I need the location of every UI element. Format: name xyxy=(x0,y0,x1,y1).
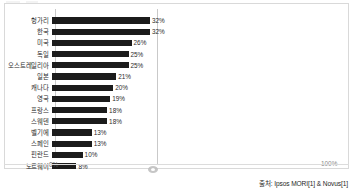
bar-wrapper: 18% xyxy=(52,105,350,116)
bar[interactable] xyxy=(52,152,83,158)
bar-wrapper: 10% xyxy=(52,149,350,160)
bar-value-label: 32% xyxy=(152,17,165,24)
bar-value-label: 21% xyxy=(118,73,131,80)
bar-row: 핀란드10% xyxy=(5,149,350,160)
bar-row: 캐나다20% xyxy=(5,82,350,93)
bar[interactable] xyxy=(52,51,129,57)
category-label: 헝가리 xyxy=(5,17,52,24)
bar-wrapper: 32% xyxy=(52,15,350,26)
bar-value-label: 13% xyxy=(94,129,107,136)
chart-container: 헝가리32%한국32%미국26%독일25%오스트레일리아25%일본21%캐나다2… xyxy=(0,0,354,192)
bar-value-label: 25% xyxy=(131,51,144,58)
bar-value-label: 13% xyxy=(94,140,107,147)
bar[interactable] xyxy=(52,40,132,46)
category-label: 스웨덴 xyxy=(5,118,52,125)
bar-row: 스페인13% xyxy=(5,138,350,149)
category-label: 독일 xyxy=(5,51,52,58)
bar-row: 오스트레일리아25% xyxy=(5,60,350,71)
bar-wrapper: 25% xyxy=(52,60,350,71)
plot-area: 헝가리32%한국32%미국26%독일25%오스트레일리아25%일본21%캐나다2… xyxy=(5,9,350,157)
bar-row: 한국32% xyxy=(5,26,350,37)
bar-value-label: 26% xyxy=(134,39,147,46)
bar[interactable] xyxy=(52,85,113,91)
bar[interactable] xyxy=(52,17,150,23)
bar-row: 독일25% xyxy=(5,49,350,60)
bar[interactable] xyxy=(52,118,107,124)
category-label: 미국 xyxy=(5,39,52,46)
bar-wrapper: 26% xyxy=(52,37,350,48)
bar-wrapper: 25% xyxy=(52,49,350,60)
bar-value-label: 19% xyxy=(112,95,125,102)
bar[interactable] xyxy=(52,73,116,79)
bar-value-label: 10% xyxy=(85,151,98,158)
bar[interactable] xyxy=(52,62,129,68)
bar-row: 일본21% xyxy=(5,71,350,82)
bar-value-label: 18% xyxy=(109,118,122,125)
category-label: 한국 xyxy=(5,28,52,35)
x-axis: 0% 100% xyxy=(5,161,350,173)
bar-row: 벨기에13% xyxy=(5,127,350,138)
bar-wrapper: 20% xyxy=(52,82,350,93)
category-label: 영국 xyxy=(5,95,52,102)
bar-row: 영국19% xyxy=(5,93,350,104)
chart-frame[interactable]: 헝가리32%한국32%미국26%독일25%오스트레일리아25%일본21%캐나다2… xyxy=(4,3,349,169)
source-note: 출처: Ipsos MORI[1] & Novus[1] xyxy=(259,178,348,188)
category-label: 오스트레일리아 xyxy=(5,62,52,69)
bar-wrapper: 18% xyxy=(52,116,350,127)
bar-wrapper: 13% xyxy=(52,127,350,138)
category-label: 스페인 xyxy=(5,140,52,147)
bar-value-label: 18% xyxy=(109,107,122,114)
bar-row: 스웨덴18% xyxy=(5,116,350,127)
bar-wrapper: 32% xyxy=(52,26,350,37)
chart-bottom-rule xyxy=(4,164,349,165)
bar-wrapper: 21% xyxy=(52,71,350,82)
gridline-drag-handle[interactable] xyxy=(148,166,158,173)
bar-wrapper: 13% xyxy=(52,138,350,149)
bar[interactable] xyxy=(52,141,92,147)
bar-value-label: 20% xyxy=(115,84,128,91)
category-label: 캐나다 xyxy=(5,84,52,91)
category-label: 프랑스 xyxy=(5,107,52,114)
bar-row: 미국26% xyxy=(5,37,350,48)
bar[interactable] xyxy=(52,29,150,35)
bar-row: 프랑스18% xyxy=(5,105,350,116)
category-label: 벨기에 xyxy=(5,129,52,136)
bar-rows: 헝가리32%한국32%미국26%독일25%오스트레일리아25%일본21%캐나다2… xyxy=(5,15,350,172)
bar-row: 헝가리32% xyxy=(5,15,350,26)
bar-value-label: 25% xyxy=(131,62,144,69)
category-label: 일본 xyxy=(5,73,52,80)
bar[interactable] xyxy=(52,96,110,102)
bar[interactable] xyxy=(52,129,92,135)
bar[interactable] xyxy=(52,107,107,113)
bar-wrapper: 19% xyxy=(52,93,350,104)
bar-value-label: 32% xyxy=(152,28,165,35)
category-label: 핀란드 xyxy=(5,151,52,158)
